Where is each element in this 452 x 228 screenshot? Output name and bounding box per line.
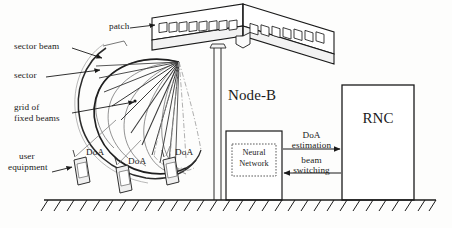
antenna-mast — [210, 44, 226, 200]
diagram-canvas — [0, 0, 452, 228]
user-equipment-handset-1 — [73, 150, 90, 185]
label-leader-lines — [46, 25, 155, 172]
sector-bracket — [103, 41, 127, 46]
sector-edge-lower — [186, 150, 201, 168]
neural-network-box — [232, 144, 276, 176]
leader-sector — [46, 70, 100, 77]
leader-user-equipment — [52, 167, 72, 172]
grid-anchor-dot — [133, 99, 136, 102]
leader-sector-beam — [72, 48, 102, 58]
ground — [41, 200, 436, 211]
leader-grid-fixed-beams — [72, 102, 134, 113]
ground-hatching — [41, 200, 436, 211]
leader-patch — [130, 25, 155, 28]
sector-beam-pattern — [75, 41, 201, 183]
signalling-arrows — [283, 149, 341, 173]
patch-antenna-array — [152, 4, 334, 64]
rnc-cabinet — [342, 85, 414, 200]
smart-antenna-network-diagram: patch sector beam sector grid of fixed b… — [0, 0, 452, 228]
